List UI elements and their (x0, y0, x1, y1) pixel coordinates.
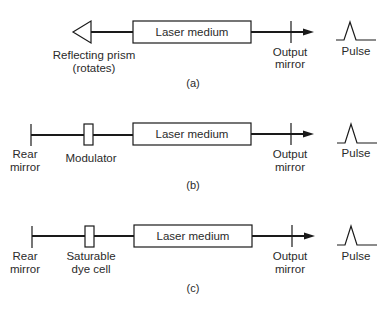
rear-mirror-label-line1: Rear (13, 148, 38, 160)
output-mirror-label-line1: Output (273, 46, 308, 58)
pulse-icon (336, 22, 376, 40)
panel-b: Laser medium Rear mirror Modulator Outpu… (10, 123, 377, 191)
dye-cell-label-line2: dye cell (72, 263, 111, 275)
rear-mirror-label-line2: mirror (10, 263, 40, 275)
modulator-label: Modulator (65, 152, 116, 164)
arrow-head-icon (303, 131, 314, 138)
output-mirror-label-line2: mirror (275, 161, 305, 173)
laser-diagram: Laser medium Reflecting prism (rotates) … (0, 0, 392, 315)
modulator-box (84, 124, 93, 145)
laser-medium-label: Laser medium (156, 26, 229, 38)
prism-label-line1: Reflecting prism (53, 49, 135, 61)
panel-caption: (c) (187, 282, 200, 294)
arrow-head-icon (304, 233, 315, 240)
pulse-icon (337, 226, 377, 245)
output-mirror-label-line1: Output (273, 250, 308, 262)
rear-mirror-label-line2: mirror (10, 161, 40, 173)
pulse-label: Pulse (342, 45, 371, 57)
pulse-icon (337, 124, 377, 143)
saturable-dye-cell-box (85, 226, 94, 247)
prism-label-line2: (rotates) (73, 62, 116, 74)
laser-medium-label: Laser medium (157, 230, 230, 242)
dye-cell-label-line1: Saturable (66, 250, 115, 262)
arrow-head-icon (303, 29, 314, 36)
pulse-label: Pulse (342, 250, 371, 262)
panel-caption: (a) (186, 77, 199, 89)
laser-medium-label: Laser medium (156, 128, 229, 140)
panel-caption: (b) (186, 179, 199, 191)
output-mirror-label-line2: mirror (275, 58, 305, 70)
pulse-label: Pulse (342, 147, 371, 159)
panel-a: Laser medium Reflecting prism (rotates) … (53, 21, 376, 89)
output-mirror-label-line2: mirror (275, 263, 305, 275)
output-mirror-label-line1: Output (273, 148, 308, 160)
reflecting-prism-icon (73, 21, 91, 43)
rear-mirror-label-line1: Rear (13, 250, 38, 262)
panel-c: Laser medium Rear mirror Saturable dye c… (10, 225, 377, 294)
